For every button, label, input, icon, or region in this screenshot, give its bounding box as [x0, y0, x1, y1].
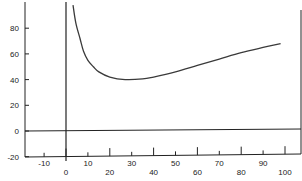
- x-tick-label: 80: [237, 168, 246, 177]
- x-tick-label: 40: [149, 168, 158, 177]
- x-tick-label: 20: [105, 168, 114, 177]
- data-series: [73, 5, 281, 80]
- x-tick-label: 50: [171, 159, 180, 168]
- y-tick-label: -20: [7, 153, 19, 162]
- chart-area: -100102030405060708090100 -20020406080: [0, 0, 302, 181]
- curve-line: [73, 5, 281, 80]
- y-tick-label: 20: [10, 101, 19, 110]
- x-tick-label: 10: [83, 159, 92, 168]
- x-tick-label: 70: [215, 159, 224, 168]
- x-tick-label: 30: [127, 159, 136, 168]
- y-tick-label: 60: [10, 50, 19, 59]
- y-tick-label: 40: [10, 76, 19, 85]
- reference-lines: [25, 2, 301, 161]
- x-tick-label: 0: [64, 168, 69, 177]
- x-axis-ticks: -100102030405060708090100: [38, 146, 292, 177]
- x-tick-label: -10: [38, 159, 50, 168]
- x-tick-label: 90: [259, 159, 268, 168]
- y-axis-ticks: -20020406080: [7, 24, 29, 162]
- x-tick-label: 100: [278, 168, 292, 177]
- line-chart: -100102030405060708090100 -20020406080: [0, 0, 302, 181]
- x-tick-label: 60: [193, 168, 202, 177]
- y-tick-label: 80: [10, 24, 19, 33]
- y-tick-label: 0: [15, 127, 20, 136]
